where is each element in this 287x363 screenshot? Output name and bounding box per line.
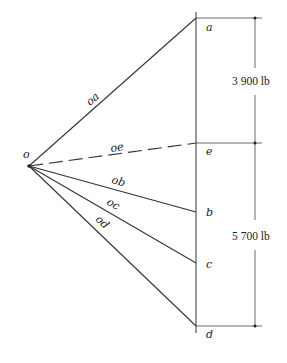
label-oe: oe — [110, 140, 125, 155]
dimension-label-1: 3 900 lb — [232, 75, 270, 87]
label-c: c — [206, 258, 212, 271]
ray-od — [29, 166, 196, 326]
label-e: e — [206, 145, 213, 158]
force-polygon-diagram: o a e b c d oa oe ob oc od 3 900 lb 5 70… — [0, 0, 287, 363]
dimension-label-2: 5 700 lb — [232, 230, 270, 242]
label-od: od — [93, 213, 112, 232]
label-a: a — [206, 21, 213, 34]
label-oa: oa — [83, 90, 101, 108]
dim-tick-e — [254, 142, 257, 145]
label-d: d — [206, 328, 213, 341]
label-oc: oc — [105, 195, 123, 213]
label-b: b — [206, 206, 213, 219]
label-ob: ob — [110, 173, 127, 189]
dim-tick-d — [254, 325, 257, 328]
pole-point — [27, 164, 31, 168]
dim-tick-a — [254, 17, 257, 20]
label-o: o — [23, 148, 30, 161]
